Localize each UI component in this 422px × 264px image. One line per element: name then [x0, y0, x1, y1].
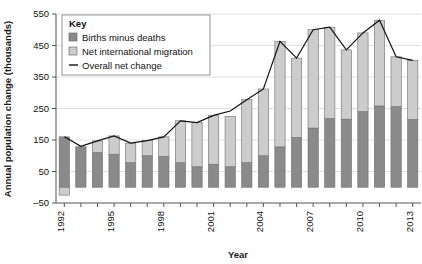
- y-tick-label: 50: [38, 166, 49, 177]
- bar-segment-net-migration: [242, 100, 252, 163]
- bar-segment-births-minus-deaths: [391, 107, 401, 188]
- bar-segment-net-migration: [358, 33, 368, 112]
- bar-segment-net-migration: [325, 27, 335, 118]
- bar-segment-net-migration: [175, 121, 185, 163]
- legend-item-label: Overall net change: [82, 60, 162, 71]
- x-tick-label: 1998: [155, 211, 166, 232]
- x-tick-label: 1995: [105, 211, 116, 232]
- x-axis-title: Year: [228, 249, 248, 260]
- bar-segment-births-minus-deaths: [291, 137, 301, 187]
- chart-canvas: –5050150250350450550 1992199519982001200…: [0, 0, 422, 264]
- bar-segment-births-minus-deaths: [374, 106, 384, 187]
- bar-segment-net-migration: [159, 137, 169, 157]
- y-tick-label: 150: [33, 134, 49, 145]
- x-axis-ticks: 19921995199820012004200720102013: [55, 203, 414, 232]
- bar-segment-births-minus-deaths: [258, 156, 268, 188]
- y-tick-label: –50: [33, 197, 49, 208]
- x-tick-label: 2004: [254, 211, 265, 232]
- bar-segment-births-minus-deaths: [59, 137, 69, 187]
- bar-segment-net-migration-negative: [59, 187, 69, 195]
- legend-item-label: Net international migration: [82, 46, 193, 57]
- bar-segment-births-minus-deaths: [325, 119, 335, 188]
- bar-segment-births-minus-deaths: [192, 167, 202, 187]
- bar-segment-net-migration: [341, 50, 351, 119]
- x-tick-label: 2007: [304, 211, 315, 232]
- bar-segment-net-migration: [126, 143, 136, 163]
- bar-segment-net-migration: [408, 60, 418, 119]
- bar-segment-net-migration: [208, 115, 218, 164]
- bar-segment-net-migration: [258, 89, 268, 156]
- bar-segment-net-migration: [76, 147, 86, 148]
- bar-segment-births-minus-deaths: [159, 156, 169, 187]
- bar-segment-births-minus-deaths: [109, 154, 119, 187]
- x-tick-label: 2013: [404, 211, 415, 232]
- bar-segment-net-migration: [391, 57, 401, 107]
- x-tick-label: 2001: [205, 211, 216, 232]
- y-tick-label: 550: [33, 8, 49, 19]
- x-tick-label: 1992: [55, 211, 66, 232]
- bar-segment-births-minus-deaths: [358, 112, 368, 188]
- bar-segment-births-minus-deaths: [92, 153, 102, 188]
- bar-segment-net-migration: [275, 41, 285, 147]
- y-tick-label: 450: [33, 40, 49, 51]
- bar-segment-births-minus-deaths: [341, 119, 351, 187]
- bar-segment-births-minus-deaths: [126, 163, 136, 188]
- bar-segment-net-migration: [192, 123, 202, 167]
- bar-segment-births-minus-deaths: [308, 128, 318, 187]
- bar-segment-births-minus-deaths: [242, 163, 252, 188]
- bar-segment-net-migration: [142, 141, 152, 156]
- bar-segment-births-minus-deaths: [225, 167, 235, 187]
- bar-segment-births-minus-deaths: [142, 156, 152, 188]
- bar-segment-births-minus-deaths: [175, 163, 185, 188]
- y-tick-label: 250: [33, 103, 49, 114]
- bar-segment-net-migration: [109, 136, 119, 154]
- bar-segment-net-migration: [225, 116, 235, 166]
- bar-segment-net-migration: [308, 30, 318, 128]
- legend: Key Births minus deathsNet international…: [62, 15, 210, 75]
- bar-segment-net-migration: [291, 58, 301, 137]
- x-tick-label: 2010: [354, 211, 365, 232]
- population-change-chart: –5050150250350450550 1992199519982001200…: [0, 0, 422, 264]
- y-axis-ticks: –5050150250350450550: [33, 8, 56, 208]
- legend-title: Key: [69, 18, 87, 29]
- y-axis-title: Annual population change (thousands): [2, 21, 13, 197]
- bar-segment-births-minus-deaths: [408, 120, 418, 188]
- bar-segment-births-minus-deaths: [275, 147, 285, 187]
- legend-swatch: [69, 33, 77, 41]
- legend-item-label: Births minus deaths: [82, 32, 166, 43]
- bar-segment-births-minus-deaths: [208, 164, 218, 187]
- y-tick-label: 350: [33, 71, 49, 82]
- legend-swatch: [69, 47, 77, 55]
- bar-segment-births-minus-deaths: [76, 147, 86, 187]
- bar-segment-net-migration: [374, 20, 384, 106]
